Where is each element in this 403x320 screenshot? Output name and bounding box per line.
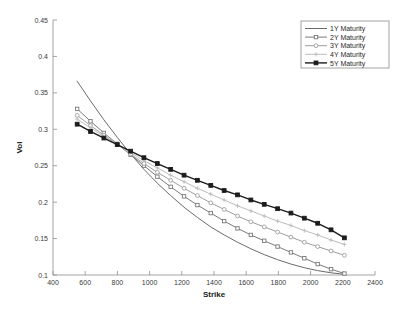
data-marker-square <box>316 262 319 265</box>
data-marker-filled-square <box>236 193 240 197</box>
data-marker-filled-square <box>249 198 253 202</box>
x-tick-label: 1400 <box>206 279 222 286</box>
x-tick-label: 2200 <box>335 279 351 286</box>
data-marker-filled-square <box>75 122 79 126</box>
series-5y-maturity <box>75 122 346 239</box>
data-marker-filled-square <box>276 207 280 211</box>
data-marker-filled-square <box>115 143 119 147</box>
data-marker-square <box>236 227 239 230</box>
data-marker-plus <box>182 180 186 184</box>
data-marker-square <box>303 257 306 260</box>
data-marker-filled-square <box>302 216 306 220</box>
data-marker-square <box>276 245 279 248</box>
data-marker-plus <box>209 192 213 196</box>
data-marker-filled-square <box>316 221 320 225</box>
data-marker-circle <box>182 186 186 190</box>
data-marker-circle <box>169 178 173 182</box>
chart-canvas: 0.10.150.20.250.30.350.40.45400600800100… <box>0 0 403 320</box>
data-marker-circle <box>236 214 240 218</box>
data-marker-filled-square <box>314 61 318 65</box>
x-tick-label: 1200 <box>174 279 190 286</box>
data-marker-circle <box>75 114 79 118</box>
data-marker-plus <box>222 198 226 202</box>
data-marker-circle <box>343 253 347 257</box>
legend-item-label: 5Y Maturity <box>330 60 366 68</box>
data-marker-filled-square <box>89 130 93 134</box>
y-tick-label: 0.25 <box>34 162 48 169</box>
data-marker-filled-square <box>222 189 226 193</box>
data-marker-filled-square <box>102 136 106 140</box>
x-tick-label: 400 <box>47 279 59 286</box>
data-marker-filled-square <box>169 167 173 171</box>
data-marker-plus <box>316 233 320 237</box>
data-marker-circle <box>289 235 293 239</box>
data-marker-circle <box>222 208 226 212</box>
data-marker-square <box>209 211 212 214</box>
data-marker-plus <box>342 242 346 246</box>
data-marker-square <box>289 251 292 254</box>
data-marker-filled-square <box>209 183 213 187</box>
data-marker-circle <box>262 225 266 229</box>
data-marker-circle <box>329 249 333 253</box>
y-tick-label: 0.3 <box>38 126 48 133</box>
data-marker-filled-square <box>155 162 159 166</box>
data-marker-square <box>182 195 185 198</box>
x-tick-label: 1600 <box>238 279 254 286</box>
series-1y-maturity <box>77 81 344 274</box>
data-marker-filled-square <box>182 173 186 177</box>
x-tick-label: 1000 <box>142 279 158 286</box>
data-marker-square <box>343 272 346 275</box>
data-marker-filled-square <box>129 149 133 153</box>
series-line <box>77 124 344 238</box>
data-marker-circle <box>316 245 320 249</box>
legend: 1Y Maturity2Y Maturity3Y Maturity4Y Matu… <box>301 21 389 68</box>
data-marker-square <box>156 175 159 178</box>
volatility-smile-chart: 0.10.150.20.250.30.350.40.45400600800100… <box>0 0 403 320</box>
y-tick-label: 0.45 <box>34 17 48 24</box>
legend-item-label: 2Y Maturity <box>330 34 366 42</box>
data-marker-filled-square <box>262 202 266 206</box>
data-marker-square <box>263 239 266 242</box>
data-marker-square <box>249 233 252 236</box>
data-marker-circle <box>314 44 318 48</box>
x-tick-label: 2400 <box>367 279 383 286</box>
legend-item-label: 3Y Maturity <box>330 42 366 50</box>
data-marker-circle <box>302 240 306 244</box>
series-line <box>77 109 344 274</box>
data-marker-square <box>75 107 78 110</box>
y-tick-label: 0.4 <box>38 53 48 60</box>
data-marker-square <box>329 267 332 270</box>
data-marker-filled-square <box>329 228 333 232</box>
data-marker-filled-square <box>289 211 293 215</box>
x-tick-label: 800 <box>112 279 124 286</box>
data-marker-plus <box>249 209 253 213</box>
series-line <box>77 81 344 274</box>
data-marker-plus <box>262 214 266 218</box>
data-marker-plus <box>329 238 333 242</box>
data-marker-square <box>89 120 92 123</box>
data-marker-square <box>196 203 199 206</box>
data-marker-filled-square <box>196 178 200 182</box>
y-tick-label: 0.1 <box>38 272 48 279</box>
x-axis-title: Strike <box>203 290 226 299</box>
data-marker-plus <box>235 204 239 208</box>
data-marker-plus <box>155 166 159 170</box>
x-tick-label: 600 <box>79 279 91 286</box>
legend-item-label: 1Y Maturity <box>330 25 366 33</box>
data-marker-circle <box>196 194 200 198</box>
y-axis-title: Vol <box>15 142 24 154</box>
y-tick-label: 0.15 <box>34 235 48 242</box>
x-tick-label: 1800 <box>271 279 287 286</box>
data-marker-circle <box>155 170 159 174</box>
data-marker-plus <box>302 228 306 232</box>
data-marker-square <box>314 35 317 38</box>
x-tick-label: 2000 <box>303 279 319 286</box>
data-marker-plus <box>195 186 199 190</box>
data-marker-circle <box>276 230 280 234</box>
data-marker-filled-square <box>343 236 347 240</box>
series-2y-maturity <box>75 107 346 275</box>
data-marker-square <box>222 219 225 222</box>
y-tick-label: 0.2 <box>38 199 48 206</box>
data-marker-square <box>169 185 172 188</box>
y-tick-label: 0.35 <box>34 89 48 96</box>
